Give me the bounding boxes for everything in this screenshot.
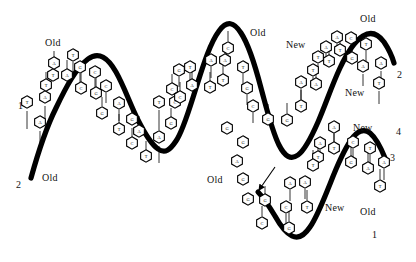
- nucleotide-g: G: [282, 114, 293, 126]
- nucleotide-hexagon: [76, 82, 87, 94]
- nucleotide-hexagon: [329, 121, 340, 133]
- nucleotide-hexagon: [127, 113, 138, 125]
- nucleotide-hexagon: [263, 113, 274, 125]
- nucleotide-c: C: [248, 100, 259, 112]
- nucleotide-hexagon: [300, 176, 311, 188]
- nucleotide-hexagon: [222, 122, 233, 134]
- nucleotide-hexagon: [324, 55, 335, 67]
- nucleotide-t: T: [205, 81, 216, 93]
- nucleotide-hexagon: [141, 150, 152, 162]
- nucleotide-hexagon: [346, 156, 357, 168]
- nucleotide-hexagon: [97, 107, 108, 119]
- strand-number-num-2-left: 2: [16, 180, 21, 190]
- nucleotide-hexagon: [154, 96, 165, 108]
- nucleotide-t: T: [185, 61, 196, 73]
- nucleotide-a: A: [35, 116, 46, 128]
- nucleotide-hexagon: [379, 156, 390, 168]
- nucleotide-g: G: [127, 113, 138, 125]
- nucleotide-hexagon: [242, 82, 253, 94]
- nucleotide-hexagon: [35, 116, 46, 128]
- nucleotide-g: G: [260, 194, 271, 206]
- nucleotide-hexagon: [346, 32, 357, 44]
- strand-label-old-top-left: Old: [45, 38, 61, 48]
- nucleotide-t: T: [218, 74, 229, 86]
- nucleotide-hexagon: [75, 61, 86, 73]
- strand-label-new-lower-mid: New: [325, 203, 344, 213]
- nucleotide-a: A: [49, 57, 60, 69]
- nucleotide-g: G: [91, 87, 102, 99]
- nucleotide-hexagon: [48, 69, 59, 81]
- nucleotide-c: C: [127, 137, 138, 149]
- nucleotide-hexagon: [175, 91, 186, 103]
- nucleotide-a: A: [62, 69, 73, 81]
- nucleotide-hexagon: [315, 137, 326, 149]
- nucleotide-hexagon: [154, 131, 165, 143]
- nucleotide-hexagon: [238, 173, 249, 185]
- nucleotide-a: A: [358, 60, 369, 72]
- nucleotide-g: G: [174, 64, 185, 76]
- nucleotide-hexagon: [284, 222, 295, 234]
- strand-number-num-4-right: 4: [396, 127, 401, 137]
- nucleotide-hexagon: [335, 44, 346, 56]
- nucleotide-hexagon: [348, 136, 359, 148]
- nucleotide-hexagon: [218, 74, 229, 86]
- nucleotide-c: C: [346, 32, 357, 44]
- nucleotide-a: A: [114, 97, 125, 109]
- strand-label-old-top-right: Old: [360, 14, 376, 24]
- nucleotide-a: A: [206, 54, 217, 66]
- nucleotide-hexagon: [166, 117, 177, 129]
- nucleotide-hexagon: [90, 66, 101, 78]
- nucleotide-hexagon: [127, 137, 138, 149]
- nucleotide-a: A: [300, 176, 311, 188]
- nucleotide-hexagon: [308, 159, 319, 171]
- nucleotide-hexagon: [206, 54, 217, 66]
- nucleotide-t: T: [114, 123, 125, 135]
- nucleotide-hexagon: [361, 38, 372, 50]
- nucleotide-a: A: [329, 121, 340, 133]
- nucleotide-hexagon: [114, 97, 125, 109]
- nucleotide-hexagon: [282, 114, 293, 126]
- nucleotide-t: T: [335, 44, 346, 56]
- nucleotide-t: T: [375, 180, 386, 192]
- nucleotide-hexagon: [62, 69, 73, 81]
- nucleotide-hexagon: [374, 77, 385, 89]
- strand-label-old-top-middle: Old: [250, 28, 266, 38]
- nucleotide-t: T: [48, 69, 59, 81]
- nucleotide-a: A: [311, 78, 322, 90]
- nucleotide-g: G: [75, 61, 86, 73]
- nucleotide-a: A: [134, 125, 145, 137]
- nucleotide-a: A: [332, 31, 343, 43]
- nucleotide-g: G: [242, 82, 253, 94]
- nucleotide-hexagon: [281, 201, 292, 213]
- nucleotide-c: C: [101, 80, 112, 92]
- nucleotide-a: A: [296, 76, 307, 88]
- nucleotide-hexagon: [248, 100, 259, 112]
- pointer-arrow-layer: [259, 167, 275, 190]
- nucleotide-hexagon: [296, 100, 307, 112]
- nucleotide-t: T: [308, 64, 319, 76]
- nucleotide-hexagon: [91, 87, 102, 99]
- nucleotide-a: A: [154, 131, 165, 143]
- nucleotide-hexagon: [365, 142, 376, 154]
- nucleotide-hexagon: [332, 31, 343, 43]
- nucleotide-t: T: [308, 159, 319, 171]
- nucleotide-t: T: [68, 49, 79, 61]
- nucleotide-hexagon: [243, 193, 254, 205]
- nucleotide-hexagon: [329, 142, 340, 154]
- nucleotide-t: T: [41, 79, 52, 91]
- nucleotide-hexagon: [41, 79, 52, 91]
- free-nucleotide-arrow: [259, 167, 275, 190]
- strand-label-old-lower-right: Old: [360, 207, 376, 217]
- nucleotide-hexagon: [40, 91, 51, 103]
- nucleotide-t: T: [302, 201, 313, 213]
- nucleotide-hexagon: [232, 155, 243, 167]
- nucleotide-c: C: [76, 82, 87, 94]
- nucleotide-a: A: [376, 57, 387, 69]
- nucleotide-t: T: [324, 55, 335, 67]
- strand-number-num-2-right: 2: [397, 70, 402, 80]
- nucleotide-t: T: [154, 96, 165, 108]
- nucleotide-c: C: [257, 217, 268, 229]
- nucleotide-hexagon: [313, 51, 324, 63]
- nucleotide-hexagon: [296, 76, 307, 88]
- nucleotide-hexagon: [174, 64, 185, 76]
